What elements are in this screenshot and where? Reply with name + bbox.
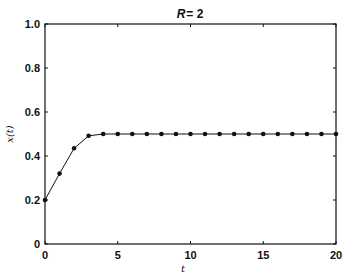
data-point-marker xyxy=(319,132,324,137)
y-tick-label: 1.0 xyxy=(25,18,40,30)
data-point-marker xyxy=(72,146,77,151)
series-markers xyxy=(43,132,339,203)
y-tick-label: 0.2 xyxy=(25,194,40,206)
data-point-marker xyxy=(305,132,310,137)
x-tick-label: 0 xyxy=(42,249,48,261)
data-point-marker xyxy=(203,132,208,137)
data-point-marker xyxy=(246,132,251,137)
y-tick-label: 0.6 xyxy=(25,106,40,118)
data-point-marker xyxy=(43,198,48,203)
series-line xyxy=(45,134,336,200)
line-chart: R= 2 05101520 00.20.40.60.81.0 t x(t) xyxy=(0,0,353,280)
data-point-marker xyxy=(159,132,164,137)
data-point-marker xyxy=(86,133,91,138)
data-point-marker xyxy=(290,132,295,137)
x-tick-label: 15 xyxy=(257,249,269,261)
y-axis-label: x(t) xyxy=(4,125,15,143)
data-point-marker xyxy=(115,132,120,137)
data-point-marker xyxy=(334,132,339,137)
y-tick-label: 0.8 xyxy=(25,62,40,74)
data-point-marker xyxy=(232,132,237,137)
data-point-marker xyxy=(130,132,135,137)
data-point-marker xyxy=(188,132,193,137)
chart-title: R= 2 xyxy=(177,7,204,21)
x-tick-label: 20 xyxy=(330,249,342,261)
data-point-marker xyxy=(261,132,266,137)
data-point-marker xyxy=(217,132,222,137)
y-tick-labels: 00.20.40.60.81.0 xyxy=(25,18,41,250)
x-tick-label: 10 xyxy=(184,249,196,261)
x-axis-label: t xyxy=(181,263,186,274)
y-tick-label: 0.4 xyxy=(25,150,41,162)
data-point-marker xyxy=(276,132,281,137)
x-tick-label: 5 xyxy=(115,249,121,261)
x-tick-labels: 05101520 xyxy=(42,249,342,261)
data-point-marker xyxy=(174,132,179,137)
data-point-marker xyxy=(57,171,62,176)
data-point-marker xyxy=(101,132,106,137)
y-tick-label: 0 xyxy=(34,238,40,250)
data-point-marker xyxy=(145,132,150,137)
